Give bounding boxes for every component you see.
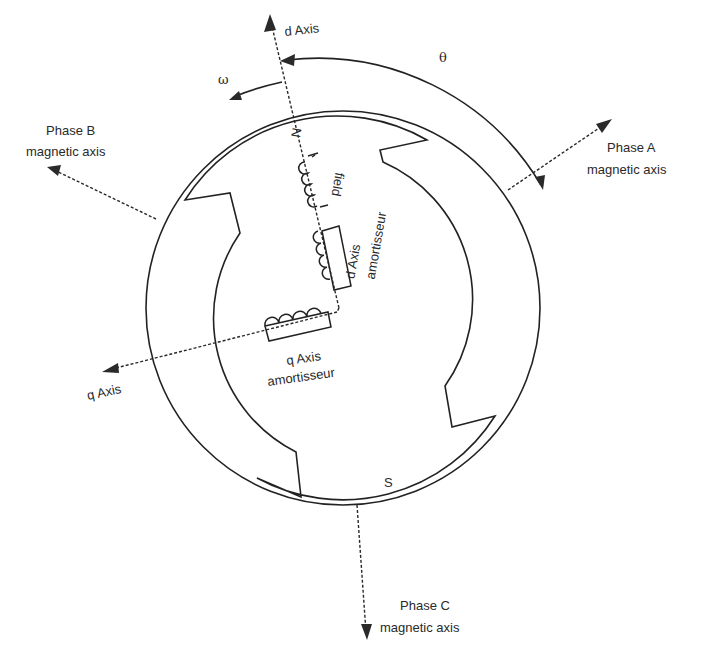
omega-arrowhead — [229, 91, 242, 100]
theta-arrowhead-d — [280, 54, 295, 66]
stator-circle — [146, 111, 540, 505]
phase-b-arrowhead — [47, 165, 61, 176]
north-pole-label: N — [288, 127, 304, 139]
phase-b-label-line2: magnetic axis — [26, 144, 106, 159]
south-pole-label: S — [384, 475, 393, 490]
d-amortisseur-label-line1: d Axis — [342, 242, 363, 279]
phase-a-label-line1: Phase A — [607, 140, 656, 155]
theta-arc — [287, 58, 541, 185]
q-amortisseur-label-line2: amortisseur — [266, 365, 336, 389]
d-axis-arrowhead — [264, 14, 276, 32]
q-amortisseur-label-line1: q Axis — [285, 348, 322, 368]
phase-c-label-line2: magnetic axis — [380, 620, 460, 635]
q-axis-line — [337, 308, 339, 312]
q-axis-label: q Axis — [86, 381, 124, 403]
d-amortisseur-label-line2: amortisseur — [363, 210, 390, 280]
phase-b-label-line1: Phase B — [46, 123, 95, 138]
phase-a-arrowhead — [596, 119, 612, 133]
field-label: field — [329, 171, 348, 197]
theta-label: θ — [439, 50, 447, 65]
q-axis-amortisseur — [265, 308, 331, 341]
d-axis-label: d Axis — [284, 20, 321, 39]
phase-c-label-line1: Phase C — [400, 598, 450, 613]
phase-c-arrowhead — [361, 624, 372, 640]
synchronous-machine-diagram: d Axis θ ω Phase B magnetic axis Phase A… — [0, 0, 709, 654]
omega-label: ω — [218, 72, 229, 87]
q-axis-arrowhead — [102, 363, 119, 373]
theta-arrowhead-a — [535, 175, 545, 190]
phase-b-axis-line — [54, 170, 156, 219]
phase-c-axis-line — [357, 505, 366, 632]
phase-a-label-line2: magnetic axis — [587, 162, 667, 177]
phase-a-axis-line — [508, 122, 608, 190]
omega-arc — [236, 82, 282, 96]
